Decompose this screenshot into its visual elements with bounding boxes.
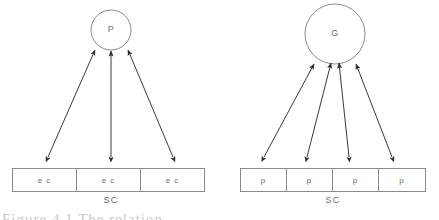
node-circle-g-label: G xyxy=(331,28,339,38)
figure-caption: Figure 4.1 The relation xyxy=(2,211,163,220)
figure-container: P e c e c e c SC G p p p xyxy=(0,0,439,220)
cell-label: e c xyxy=(38,176,52,185)
connector-arrow xyxy=(128,50,173,157)
panel-right: G p p p p SC xyxy=(241,4,426,205)
connector-arrow xyxy=(307,63,331,157)
cell-label: p xyxy=(307,176,312,185)
connector-arrow xyxy=(356,64,392,157)
group-label-sc: SC xyxy=(104,195,119,205)
connector-arrow xyxy=(264,64,314,157)
figure-caption-clip: Figure 4.1 The relation xyxy=(0,211,439,220)
connector-arrow xyxy=(339,63,349,157)
cell-label: e c xyxy=(166,176,180,185)
cell-label: p xyxy=(353,176,358,185)
cell-label: p xyxy=(399,176,404,185)
panel-left: P e c e c e c SC xyxy=(13,10,205,205)
connector-arrow xyxy=(48,50,95,157)
cell-label: p xyxy=(261,176,266,185)
relation-diagram: P e c e c e c SC G p p p xyxy=(0,0,439,220)
node-circle-p-label: P xyxy=(108,24,115,34)
cell-label: e c xyxy=(102,176,116,185)
group-label-sc: SC xyxy=(326,195,341,205)
